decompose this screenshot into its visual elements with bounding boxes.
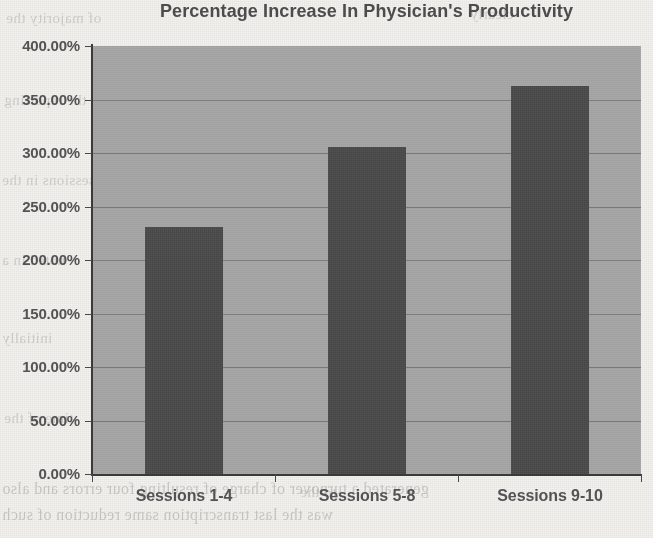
y-axis-tick	[85, 367, 92, 368]
x-axis-tick	[641, 474, 642, 482]
y-axis-label: 250.00%	[0, 198, 80, 215]
x-axis-label: Sessions 1-4	[89, 487, 279, 505]
x-axis-tick	[275, 474, 276, 482]
y-axis-label: 200.00%	[0, 251, 80, 268]
y-axis-tick	[85, 207, 92, 208]
x-axis-label: Sessions 9-10	[455, 487, 645, 505]
x-axis-tick	[458, 474, 459, 482]
x-axis-tick	[92, 474, 93, 482]
y-axis-tick	[85, 260, 92, 261]
y-axis-tick	[85, 153, 92, 154]
x-axis-label: Sessions 5-8	[272, 487, 462, 505]
y-axis-label: 0.00%	[0, 465, 80, 482]
x-axis-line	[91, 474, 642, 476]
y-axis-tick	[85, 421, 92, 422]
bar-chart: Percentage Increase In Physician's Produ…	[0, 0, 653, 538]
y-axis-label: 150.00%	[0, 305, 80, 322]
plot-area	[92, 46, 641, 474]
bar	[511, 86, 589, 474]
y-axis-label: 350.00%	[0, 91, 80, 108]
y-axis-tick	[85, 474, 92, 475]
chart-title: Percentage Increase In Physician's Produ…	[92, 1, 641, 22]
bar	[145, 227, 223, 474]
y-axis-label: 100.00%	[0, 358, 80, 375]
y-axis-tick	[85, 46, 92, 47]
bar	[328, 147, 406, 474]
y-axis-label: 400.00%	[0, 37, 80, 54]
y-axis-tick	[85, 100, 92, 101]
scanned-page: of majority the clearly in the reporting…	[0, 0, 653, 538]
y-axis-label: 50.00%	[0, 412, 80, 429]
y-axis-tick	[85, 314, 92, 315]
y-axis-label: 300.00%	[0, 144, 80, 161]
